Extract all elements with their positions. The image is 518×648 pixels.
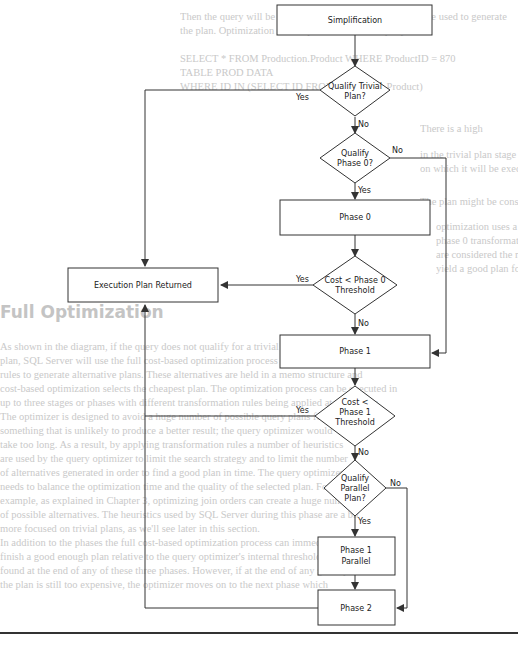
phase1-parallel-box: [318, 537, 395, 575]
cost-phase0-diamond: [313, 256, 397, 314]
cost-phase1-label-2: Phase 1: [339, 408, 371, 417]
edge-label-cost1-no: No: [358, 448, 369, 457]
edge-label-cost0-yes: Yes: [295, 275, 309, 284]
phase1-label: Phase 1: [339, 347, 371, 356]
cost-phase0-label-2: Threshold: [334, 286, 374, 295]
flowchart: Simplification Qualify Trivial Plan? Qua…: [0, 0, 518, 648]
cost-phase1-label-1: Cost <: [341, 398, 368, 407]
phase1-parallel-label-2: Parallel: [341, 557, 370, 566]
edge-label-phase0-yes: Yes: [357, 186, 371, 195]
edge-label-trivial-no: No: [358, 120, 369, 129]
edge-label-parallel-no: No: [390, 479, 401, 488]
qualify-phase0-diamond: [320, 133, 390, 183]
edge-label-cost0-no: No: [358, 319, 369, 328]
qualify-parallel-label-2: Parallel: [340, 484, 369, 493]
qualify-phase0-label-1: Qualify: [341, 149, 369, 158]
cost-phase0-label-1: Cost < Phase 0: [324, 276, 385, 285]
qualify-parallel-label-1: Qualify: [341, 474, 369, 483]
phase2-label: Phase 2: [340, 604, 372, 613]
qualify-parallel-label-3: Plan?: [344, 494, 365, 503]
phase0-label: Phase 0: [339, 213, 371, 222]
edge-label-cost1-yes: Yes: [295, 406, 309, 415]
phase1-parallel-label-1: Phase 1: [340, 546, 372, 555]
edge-label-parallel-yes: Yes: [357, 517, 371, 526]
simplification-label: Simplification: [328, 16, 382, 25]
qualify-trivial-label-2: Plan?: [344, 92, 365, 101]
edge-label-trivial-yes: Yes: [295, 93, 309, 102]
cost-phase1-label-3: Threshold: [334, 418, 374, 427]
qualify-trivial-label-1: Qualify Trivial: [328, 82, 382, 91]
edge-label-phase0-no: No: [392, 146, 403, 155]
execution-plan-label: Execution Plan Returned: [94, 281, 192, 290]
qualify-trivial-diamond: [320, 66, 390, 116]
page-bottom-rule: [0, 632, 518, 634]
qualify-phase0-label-2: Phase 0?: [337, 159, 373, 168]
